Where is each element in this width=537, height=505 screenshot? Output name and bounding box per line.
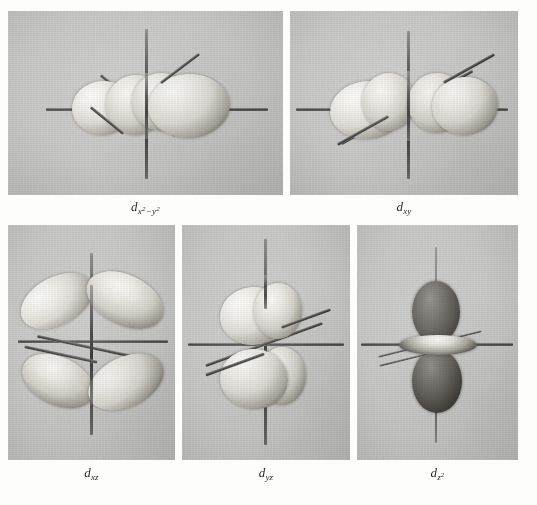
caption-d-xy: dxy [290,200,518,216]
orbital-lobe [412,281,460,343]
orbital-lobe [412,349,462,413]
orbital-lobe [254,283,302,339]
caption-subscript: yz [265,472,273,482]
orbital-lobe [79,342,173,422]
caption-d-yz: dyz [182,466,350,482]
axis-rod-z-front [145,73,148,139]
axis-rod-x [18,340,168,343]
axis-rod-z-front [264,275,267,309]
panel-d-x2-y2 [8,11,283,195]
caption-subscript: xz [91,472,99,482]
caption-exponent: 2 [441,471,445,479]
caption-exponent-2: 2 [156,205,160,213]
panel-d-yz [182,225,350,460]
orbital-plate-figure: dx2−y2 dxy dxz [0,0,537,505]
panel-d-xy [290,11,518,195]
caption-d-xz: dxz [8,466,175,482]
caption-d-z2: dz2 [357,466,518,482]
panel-d-z2 [357,225,518,460]
caption-d-x2-y2: dx2−y2 [8,200,283,216]
axis-rod-z-front [90,285,93,405]
caption-symbol: d [131,199,138,214]
caption-symbol: d [84,465,91,480]
caption-subscript: xy [403,206,411,216]
panel-d-xz [8,225,175,460]
orbital-torus [399,335,477,355]
axis-rod-z-front [407,71,410,141]
